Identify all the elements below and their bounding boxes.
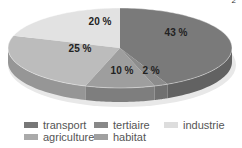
legend-label: industrie xyxy=(183,119,225,131)
legend-label: transport xyxy=(43,119,86,131)
corner-mark: 2 xyxy=(232,0,236,5)
legend-label: tertiaire xyxy=(113,119,150,131)
legend-item-tertiaire: tertiaire xyxy=(94,119,150,131)
slice-label: 25 % xyxy=(69,43,92,54)
pie-side-habitat xyxy=(85,86,154,102)
pie-side-tertiaire xyxy=(155,84,168,100)
legend-swatch xyxy=(94,122,108,128)
legend-swatch xyxy=(94,134,108,140)
legend-item-agriculture: agriculture xyxy=(24,131,94,143)
legend-swatch xyxy=(24,122,38,128)
slice-label: 43 % xyxy=(165,27,188,38)
legend-item-industrie: industrie xyxy=(164,119,225,131)
legend-label: habitat xyxy=(113,131,146,143)
slice-label: 20 % xyxy=(89,16,112,27)
slice-label: 10 % xyxy=(111,65,134,76)
legend-swatch xyxy=(24,134,38,140)
legend-label: agriculture xyxy=(43,131,94,143)
legend-item-transport: transport xyxy=(24,119,86,131)
legend-item-habitat: habitat xyxy=(94,131,146,143)
legend-swatch xyxy=(164,122,178,128)
slice-label: 2 % xyxy=(142,65,159,76)
